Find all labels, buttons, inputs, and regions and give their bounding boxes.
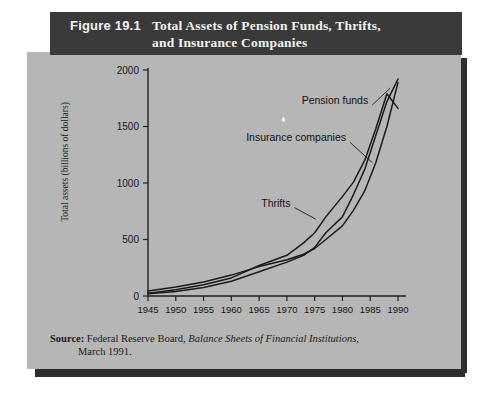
source-text-before: Federal Reserve Board, — [84, 333, 188, 344]
figure-title-text: Figure 19.1Total Assets of Pension Funds… — [70, 17, 456, 51]
data-series-pension-funds — [148, 79, 398, 294]
figure-title-line1: Total Assets of Pension Funds, Thrifts, — [152, 18, 381, 33]
x-tick-label: 1990 — [387, 304, 408, 315]
series-leader-line — [294, 208, 315, 220]
x-tick-label: 1970 — [276, 304, 297, 315]
figure-shadow-bottom — [35, 369, 465, 377]
source-note: Source: Federal Reserve Board, Balance S… — [50, 332, 440, 358]
source-label: Source: — [50, 333, 84, 344]
source-line2: March 1991. — [78, 345, 440, 358]
x-tick-label: 1975 — [304, 304, 325, 315]
x-tick-label: 1985 — [360, 304, 381, 315]
series-label-insurance-companies: Insurance companies — [246, 131, 346, 143]
source-title-italic: Balance Sheets of Financial Institutions — [188, 333, 356, 344]
series-leader-line — [372, 88, 390, 105]
x-tick-label: 1955 — [193, 304, 214, 315]
series-label-pension-funds: Pension funds — [302, 94, 369, 106]
figure-title: Total Assets of Pension Funds, Thrifts,a… — [152, 17, 447, 51]
y-tick-label: 1500 — [117, 121, 140, 132]
figure-title-bar: Figure 19.1Total Assets of Pension Funds… — [50, 12, 462, 55]
y-tick-label: 0 — [133, 291, 139, 302]
figure-container: Total assets (billions of dollars) 05001… — [0, 0, 496, 394]
figure-panel: Total assets (billions of dollars) 05001… — [27, 52, 461, 369]
x-tick-label: 1980 — [332, 304, 353, 315]
figure-number: Figure 19.1 — [70, 17, 152, 34]
figure-title-line2: and Insurance Companies — [152, 35, 307, 50]
series-label-thrifts: Thrifts — [261, 197, 290, 209]
x-tick-label: 1950 — [165, 304, 186, 315]
figure-shadow-right — [460, 58, 467, 373]
x-tick-label: 1960 — [221, 304, 242, 315]
y-tick-label: 1000 — [117, 178, 140, 189]
series-leader-line — [350, 142, 372, 162]
x-tick-label: 1945 — [137, 304, 158, 315]
chart-area: Total assets (billions of dollars) 05001… — [27, 52, 461, 369]
line-chart-svg: 0500100015002000194519501955196019651970… — [27, 52, 461, 369]
source-text-after: , — [356, 333, 359, 344]
x-tick-label: 1965 — [249, 304, 270, 315]
y-tick-label: 500 — [122, 234, 139, 245]
y-tick-label: 2000 — [117, 65, 140, 76]
